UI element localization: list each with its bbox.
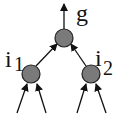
node-g: [55, 29, 73, 47]
label-g: g: [76, 0, 88, 26]
input-arrow-i1-right: [37, 84, 46, 113]
edge-i1-to-g: [36, 44, 57, 66]
tree-diagram: g i 1 i 2: [0, 0, 120, 119]
label-i2: i: [95, 45, 102, 71]
label-i2-subscript: 2: [103, 57, 113, 79]
label-i1-subscript: 1: [14, 53, 24, 75]
input-arrow-i2-left: [77, 84, 86, 113]
edge-i2-to-g: [71, 44, 86, 66]
input-arrow-i1-left: [17, 84, 27, 113]
input-arrow-i2-right: [96, 84, 106, 113]
node-i1: [22, 65, 40, 83]
label-i1: i: [5, 46, 12, 72]
